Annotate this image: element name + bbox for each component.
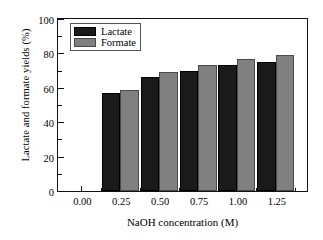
y-axis-tick-label: 20 [44, 152, 55, 163]
chart-figure: Lactate and formate yields (%) 020406080… [0, 0, 323, 240]
chart-legend: Lactate Formate [70, 23, 141, 51]
y-axis-tick: 40 [58, 122, 64, 123]
y-axis-tick: 60 [58, 88, 64, 89]
bar-lactate-0.50 [141, 77, 160, 191]
bar-formate-0.50 [159, 72, 178, 191]
x-axis-tick-label: 1.00 [229, 196, 247, 208]
legend-swatch-lactate [74, 27, 96, 36]
y-axis-tick-label: 100 [38, 15, 54, 26]
x-axis-tick-label: 1.25 [268, 196, 286, 208]
y-axis-minor-tick [58, 174, 62, 175]
y-axis-minor-tick [58, 71, 62, 72]
bar-lactate-0.75 [180, 71, 199, 191]
y-axis-minor-tick [58, 105, 62, 106]
bar-lactate-1.25 [257, 62, 276, 191]
y-axis-tick: 0 [58, 191, 64, 192]
y-axis-title: Lactate and formate yields (%) [18, 0, 34, 190]
y-axis-minor-tick [58, 139, 62, 140]
y-axis-tick-label: 40 [44, 118, 55, 129]
y-axis-tick-label: 0 [49, 187, 54, 198]
x-axis-tick-label: 0.50 [151, 196, 169, 208]
y-axis-tick-label: 80 [44, 49, 55, 60]
x-axis-tick-label: 0.00 [73, 196, 91, 208]
x-axis-minor-tick [295, 188, 296, 191]
legend-label-lactate: Lactate [101, 26, 132, 37]
bar-formate-1.00 [237, 59, 256, 191]
legend-entry-lactate: Lactate [74, 26, 136, 37]
x-axis-title: NaOH concentration (M) [57, 216, 308, 229]
legend-label-formate: Formate [101, 37, 136, 48]
y-axis-tick: 80 [58, 53, 64, 54]
bar-lactate-0.25 [102, 93, 121, 191]
x-axis-tick-label: 0.25 [112, 196, 130, 208]
y-axis-minor-tick [58, 36, 62, 37]
bar-formate-0.25 [120, 90, 139, 191]
bar-formate-0.75 [198, 65, 217, 191]
bar-lactate-1.00 [218, 65, 237, 191]
x-axis-tick: 0.00 [81, 186, 82, 192]
y-axis-tick: 100 [58, 19, 64, 20]
legend-swatch-formate [74, 38, 96, 47]
y-axis-tick: 20 [58, 157, 64, 158]
bar-formate-1.25 [276, 55, 295, 191]
x-axis-tick-label: 0.75 [190, 196, 208, 208]
legend-entry-formate: Formate [74, 37, 136, 48]
y-axis-tick-label: 60 [44, 83, 55, 94]
